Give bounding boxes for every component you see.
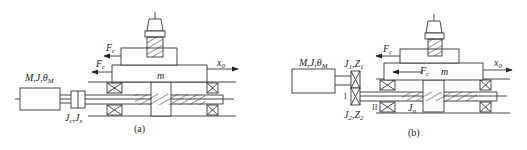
caption-b: (b) bbox=[408, 128, 420, 138]
cutting-tool-b bbox=[428, 39, 442, 56]
mass-label-b: m bbox=[441, 67, 448, 77]
motor-box-b bbox=[292, 69, 335, 93]
cutting-tool bbox=[147, 37, 163, 57]
caption-a: (a) bbox=[134, 124, 145, 134]
motor-label-a: M,J,θM bbox=[25, 73, 54, 85]
shaft-I-label: I bbox=[344, 93, 347, 101]
motor-box bbox=[20, 88, 60, 110]
mass-label-a: m bbox=[157, 71, 164, 81]
ball-screw bbox=[135, 94, 205, 105]
bearing-left-top bbox=[107, 83, 122, 93]
gear-2 bbox=[351, 88, 360, 105]
bearing-right-top bbox=[207, 83, 218, 93]
gear2-label: J2,Z2 bbox=[344, 110, 364, 122]
output-label-a: x0 bbox=[217, 58, 225, 70]
ball-screw-b bbox=[402, 92, 477, 101]
force-label-upper-a: Fc bbox=[106, 43, 115, 55]
coupling-inertia-label: Jc,Js bbox=[65, 113, 82, 125]
output-label-b: x0 bbox=[494, 58, 502, 70]
tool-holder-cone bbox=[147, 19, 163, 31]
panel-a bbox=[15, 12, 238, 116]
gear-1 bbox=[351, 71, 360, 88]
gear1-label: J1,Z1 bbox=[344, 59, 364, 71]
force-label-lower-b: Fc bbox=[420, 66, 429, 78]
force-label-lower-a: Fc bbox=[96, 59, 105, 71]
bearing-left-bottom bbox=[107, 105, 122, 115]
shaft-II-label: II bbox=[372, 104, 377, 112]
bearing-right-bottom bbox=[207, 105, 218, 115]
screw-inertia-label: Jn bbox=[408, 103, 416, 115]
motor-label-b: M,J,θM bbox=[299, 58, 328, 70]
worktable-mass-b bbox=[384, 63, 483, 80]
force-label-upper-b: Fc bbox=[383, 44, 392, 56]
